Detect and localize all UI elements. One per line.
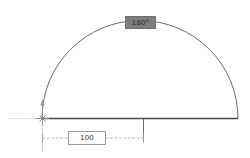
angle-tooltip-180[interactable]: 180° <box>125 16 156 29</box>
dimension-value-box[interactable]: 100 <box>68 131 106 145</box>
semicircular-arc[interactable] <box>42 21 238 119</box>
cad-drawing-canvas[interactable]: 180° 100 <box>0 0 250 158</box>
